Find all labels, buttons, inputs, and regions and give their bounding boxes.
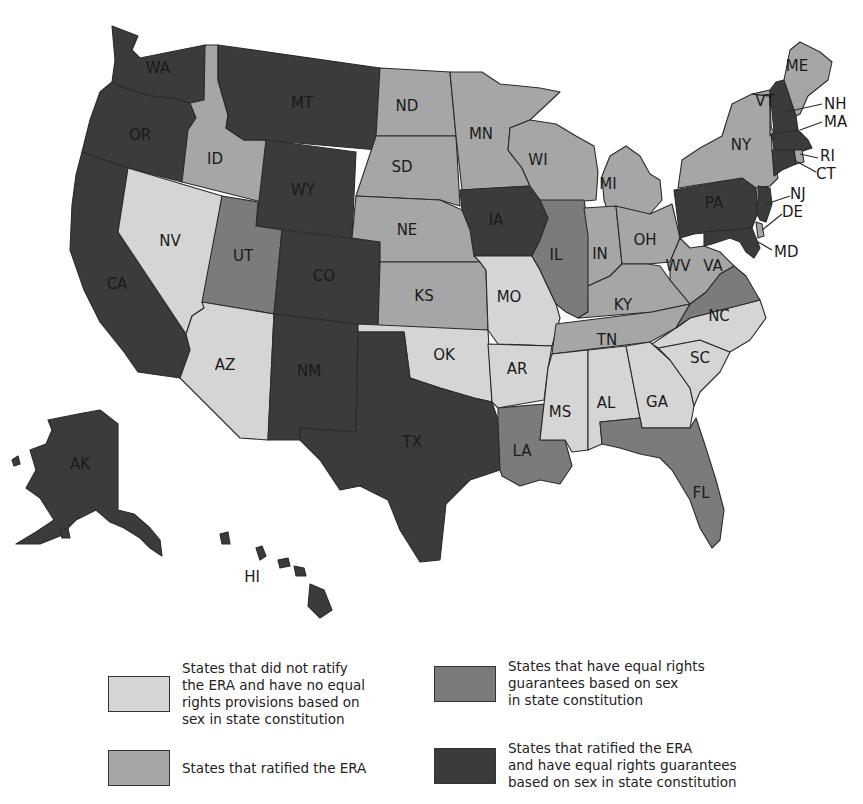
label-mi: MI xyxy=(599,175,616,193)
label-ga: GA xyxy=(646,393,669,411)
label-nv: NV xyxy=(159,232,181,250)
leader-ct xyxy=(794,160,816,172)
label-nd: ND xyxy=(396,97,419,115)
state-ak[interactable] xyxy=(16,410,162,556)
label-ky: KY xyxy=(614,296,633,314)
state-nj[interactable] xyxy=(756,186,772,222)
label-ut: UT xyxy=(233,247,254,265)
state-ak-island xyxy=(12,456,20,466)
label-ne: NE xyxy=(397,221,418,239)
label-md: MD xyxy=(774,243,799,261)
label-va: VA xyxy=(703,257,723,275)
label-ks: KS xyxy=(414,287,433,305)
state-ak-island xyxy=(60,528,70,538)
label-in: IN xyxy=(592,245,608,263)
label-ia: IA xyxy=(489,211,504,229)
legend-swatch-light xyxy=(108,676,170,712)
label-id: ID xyxy=(207,150,223,168)
label-sd: SD xyxy=(391,158,412,176)
label-la: LA xyxy=(513,442,533,460)
state-ma[interactable] xyxy=(772,130,812,152)
label-ri: RI xyxy=(820,147,835,165)
legend-item-both: States that ratified the ERA and have eq… xyxy=(434,740,737,791)
label-az: AZ xyxy=(215,356,236,374)
label-nh: NH xyxy=(824,95,847,113)
state-hi-island xyxy=(278,558,290,568)
label-or: OR xyxy=(129,126,151,144)
label-il: IL xyxy=(550,246,563,264)
state-ct[interactable] xyxy=(772,150,796,176)
label-ca: CA xyxy=(107,275,128,293)
label-nj: NJ xyxy=(790,185,806,203)
label-ak: AK xyxy=(70,455,91,473)
legend-item-constitution: States that have equal rights guarantees… xyxy=(434,658,705,709)
label-mt: MT xyxy=(291,94,314,112)
label-mn: MN xyxy=(469,125,493,143)
label-nm: NM xyxy=(297,362,321,380)
legend-item-ratified: States that ratified the ERA xyxy=(108,750,366,786)
legend-text: States that ratified the ERA xyxy=(182,760,366,777)
label-wv: WV xyxy=(665,257,691,275)
label-hi: HI xyxy=(244,568,260,586)
us-map: WA OR CA ID NV MT WY UT AZ CO NM ND SD N… xyxy=(0,0,863,640)
label-ny: NY xyxy=(731,136,752,154)
leader-ma xyxy=(800,122,822,130)
legend-item-no-ratify: States that did not ratify the ERA and h… xyxy=(108,660,365,728)
label-nc: NC xyxy=(708,307,730,325)
label-mo: MO xyxy=(497,288,522,306)
label-ma: MA xyxy=(824,113,848,131)
label-pa: PA xyxy=(705,194,724,212)
label-de: DE xyxy=(782,203,803,221)
label-tn: TN xyxy=(596,331,617,349)
state-hi-island xyxy=(256,546,266,560)
label-co: CO xyxy=(313,267,335,285)
legend-text: States that have equal rights guarantees… xyxy=(508,658,705,709)
label-wi: WI xyxy=(528,151,547,169)
legend-text: States that ratified the ERA and have eq… xyxy=(508,740,737,791)
state-hi[interactable] xyxy=(220,532,230,544)
label-wa: WA xyxy=(146,59,171,77)
legend-swatch-medium-light xyxy=(108,750,170,786)
state-ia[interactable] xyxy=(460,186,548,256)
label-wy: WY xyxy=(291,181,316,199)
label-tx: TX xyxy=(401,433,421,451)
legend-text: States that did not ratify the ERA and h… xyxy=(182,660,365,728)
label-vt: VT xyxy=(755,92,775,110)
label-fl: FL xyxy=(693,484,711,502)
legend: States that did not ratify the ERA and h… xyxy=(0,640,863,804)
label-ar: AR xyxy=(507,360,528,378)
label-ms: MS xyxy=(549,403,571,421)
state-hi-island xyxy=(308,584,332,618)
legend-swatch-dark xyxy=(434,748,496,784)
legend-swatch-medium-dark xyxy=(434,666,496,702)
label-me: ME xyxy=(786,57,808,75)
label-sc: SC xyxy=(690,349,710,367)
state-hi-island xyxy=(294,566,306,576)
label-al: AL xyxy=(597,394,616,412)
label-ct: CT xyxy=(816,165,836,183)
label-oh: OH xyxy=(633,231,656,249)
label-ok: OK xyxy=(433,346,456,364)
